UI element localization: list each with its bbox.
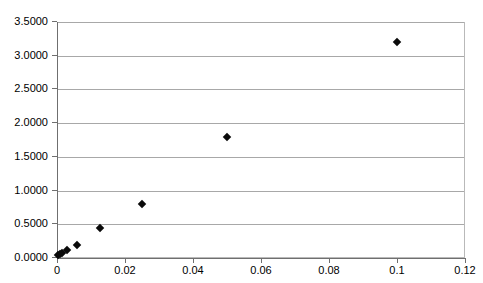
y-tick-label: 1.5000 [0,151,48,162]
y-tick-label: 2.0000 [0,117,48,128]
gridline [58,22,464,23]
y-tick-mark [52,190,57,191]
x-tick-label: 0.1 [367,265,427,276]
y-tick-mark [52,223,57,224]
y-tick-mark [52,88,57,89]
gridline [58,224,464,225]
gridline [58,191,464,192]
x-tick-mark [193,259,194,263]
x-tick-label: 0.04 [163,265,223,276]
y-tick-mark [52,55,57,56]
x-tick-mark [261,259,262,263]
y-tick-mark [52,156,57,157]
y-tick-mark [52,122,57,123]
x-tick-mark [125,259,126,263]
y-tick-label: 3.5000 [0,16,48,27]
x-tick-mark [465,259,466,263]
x-tick-mark [397,259,398,263]
gridline [58,123,464,124]
y-tick-label: 0.0000 [0,252,48,263]
y-tick-label: 3.0000 [0,50,48,61]
plot-area [57,22,465,258]
x-tick-label: 0.06 [231,265,291,276]
x-tick-label: 0.12 [435,265,483,276]
x-tick-label: 0 [27,265,87,276]
x-tick-label: 0.02 [95,265,155,276]
x-tick-mark [329,259,330,263]
scatter-chart: 0.00000.50001.00001.50002.00002.50003.00… [0,0,483,283]
gridline [58,56,464,57]
y-tick-label: 1.0000 [0,185,48,196]
y-tick-mark [52,21,57,22]
x-tick-label: 0.08 [299,265,359,276]
y-tick-label: 0.5000 [0,218,48,229]
gridline [58,89,464,90]
y-tick-label: 2.5000 [0,83,48,94]
gridline [58,157,464,158]
y-axis-line [57,22,58,259]
